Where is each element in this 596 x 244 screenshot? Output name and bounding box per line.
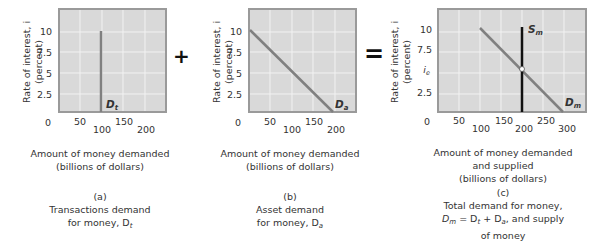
svg-text:50: 50 (453, 115, 465, 126)
svg-text:300: 300 (558, 123, 576, 134)
panel-a-transactions-demand: Rate of interest, i (percent) 10 7.5 5 2… (0, 0, 180, 244)
svg-text:250: 250 (537, 115, 555, 126)
svg-text:0: 0 (424, 116, 430, 127)
y-axis-label-line1: Rate of interest, i (211, 21, 222, 103)
svg-text:0: 0 (235, 117, 241, 128)
svg-text:2.5: 2.5 (37, 89, 52, 100)
ytick-ie: ie (423, 64, 430, 77)
x-axis-label: Amount of money demanded and supplied (b… (410, 146, 596, 185)
svg-text:2.5: 2.5 (227, 89, 242, 100)
caption-b: (b) Asset demand for money, Da (210, 190, 370, 233)
panel-c-money-market: Rate of interest, i (percent) 10 7.5 ie … (380, 0, 596, 244)
svg-text:0: 0 (45, 117, 51, 128)
plot-area (249, 9, 356, 112)
svg-text:10: 10 (420, 24, 432, 35)
svg-text:100: 100 (472, 123, 490, 134)
svg-text:200: 200 (327, 124, 345, 135)
svg-text:50: 50 (74, 116, 86, 127)
x-ticks: 0 50 150 250 100 200 300 (424, 115, 576, 134)
x-ticks: 0 50 150 100 200 (235, 116, 345, 135)
svg-text:150: 150 (305, 116, 323, 127)
x-axis-label: Amount of money demanded (billions of do… (210, 147, 370, 173)
svg-text:5: 5 (236, 68, 242, 79)
svg-text:10: 10 (40, 26, 52, 37)
panel-b-asset-demand: Rate of interest, i (percent) 10 7.5 5 2… (190, 0, 370, 244)
svg-text:200: 200 (515, 123, 533, 134)
svg-text:100: 100 (283, 124, 301, 135)
svg-text:150: 150 (115, 116, 133, 127)
svg-text:7.5: 7.5 (417, 44, 432, 55)
y-axis-label-line2: (percent) (401, 40, 412, 84)
svg-text:200: 200 (137, 124, 155, 135)
caption-a: (a) Transactions demand for money, Dt (20, 190, 180, 233)
svg-text:150: 150 (495, 115, 513, 126)
svg-text:50: 50 (264, 116, 276, 127)
plot-area (59, 9, 166, 112)
y-axis-label-line1: Rate of interest, i (21, 21, 32, 103)
y-ticks: 10 7.5 ie 2.5 (417, 24, 432, 98)
svg-text:100: 100 (93, 124, 111, 135)
equilibrium-point (520, 67, 525, 72)
caption-c: (c) Total demand for money, Dm = Dt + Da… (410, 186, 596, 242)
svg-text:7.5: 7.5 (227, 47, 242, 58)
plus-operator: + (173, 44, 190, 68)
svg-text:5: 5 (46, 68, 52, 79)
svg-text:2.5: 2.5 (417, 87, 432, 98)
svg-text:10: 10 (230, 26, 242, 37)
y-axis-label-line1: Rate of interest, i (389, 21, 400, 103)
svg-text:7.5: 7.5 (37, 47, 52, 58)
x-axis-label: Amount of money demanded (billions of do… (20, 147, 180, 173)
x-ticks: 0 50 150 100 200 (45, 116, 155, 135)
